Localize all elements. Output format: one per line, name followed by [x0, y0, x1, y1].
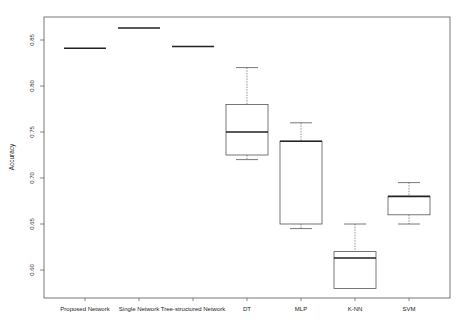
box-dt: [226, 68, 268, 160]
iqr-box: [226, 104, 268, 155]
x-category-label: Proposed Network: [60, 306, 110, 312]
y-tick-label: 0.80: [29, 80, 35, 92]
box-series: [64, 28, 430, 288]
y-tick-label: 0.65: [29, 218, 35, 230]
box-k-nn: [334, 224, 376, 288]
y-tick-label: 0.60: [29, 264, 35, 276]
x-category-label: DT: [243, 306, 251, 312]
box-svm: [388, 183, 430, 224]
y-axis-title: Accuracy: [8, 143, 16, 170]
x-category-label: Tree-structured Network: [161, 306, 226, 312]
y-tick-label: 0.85: [29, 34, 35, 46]
x-category-label: Single Network: [119, 306, 160, 312]
y-tick-label: 0.70: [29, 172, 35, 184]
iqr-box: [280, 141, 322, 224]
y-tick-label: 0.75: [29, 126, 35, 138]
x-category-label: SVM: [402, 306, 415, 312]
x-category-label: MLP: [295, 306, 307, 312]
iqr-box: [388, 196, 430, 214]
iqr-box: [334, 252, 376, 289]
x-axis: Proposed NetworkSingle NetworkTree-struc…: [60, 298, 415, 312]
x-category-label: K-NN: [348, 306, 363, 312]
box-mlp: [280, 123, 322, 229]
plot-frame: [44, 17, 450, 298]
boxplot-chart: 0.600.650.700.750.800.85 Proposed Networ…: [0, 0, 468, 332]
y-axis: 0.600.650.700.750.800.85: [29, 34, 44, 276]
